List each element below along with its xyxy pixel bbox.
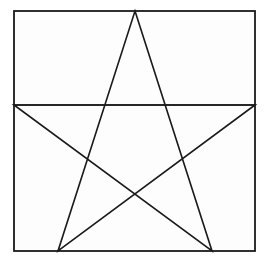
pentagram-figure: Pentagram inscribed in a square A five-p… bbox=[0, 0, 267, 261]
